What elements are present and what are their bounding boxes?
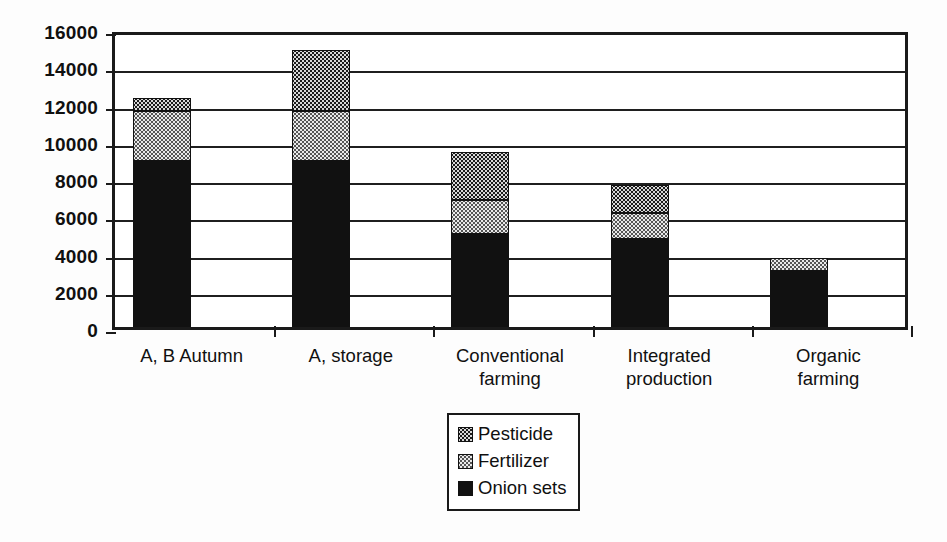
bar-segment-fertilizer	[451, 200, 509, 234]
y-tick-label: 12000	[44, 97, 98, 116]
bar-segment-fertilizer	[292, 111, 350, 161]
chart-legend: PesticideFertilizerOnion sets	[447, 413, 580, 511]
legend-swatch-icon	[458, 454, 473, 469]
bar-segment-pesticide	[451, 152, 509, 200]
gridline	[115, 109, 905, 111]
bar-segment-onion-sets	[451, 234, 509, 327]
x-tick-mark	[752, 326, 754, 337]
bar-segment-fertilizer	[133, 111, 191, 161]
y-tick-mark	[106, 332, 116, 334]
legend-item-pesticide: Pesticide	[458, 421, 570, 448]
bar-segment-onion-sets	[133, 161, 191, 327]
legend-item-onion-sets: Onion sets	[458, 475, 570, 502]
bar-2	[292, 50, 350, 328]
x-tick-label: Integrated production	[590, 345, 749, 390]
bar-4	[611, 185, 669, 327]
y-tick-label: 2000	[55, 283, 98, 302]
legend-label: Pesticide	[478, 425, 553, 444]
y-tick-mark	[106, 183, 116, 185]
y-tick-label: 10000	[44, 134, 98, 153]
y-tick-mark	[106, 220, 116, 222]
bar-segment-fertilizer	[770, 258, 828, 271]
bar-3	[451, 152, 509, 327]
y-tick-mark	[106, 34, 116, 36]
plot-area	[112, 32, 908, 330]
bar-segment-fertilizer	[611, 213, 669, 239]
bar-segment-pesticide	[611, 185, 669, 213]
y-tick-label: 8000	[55, 172, 98, 191]
bar-segment-onion-sets	[292, 161, 350, 327]
legend-label: Onion sets	[478, 479, 566, 498]
bar-1	[133, 98, 191, 327]
y-tick-mark	[106, 258, 116, 260]
y-tick-mark	[106, 109, 116, 111]
x-tick-label: Organic farming	[749, 345, 908, 390]
y-tick-label: 0	[87, 321, 98, 340]
gridline	[115, 71, 905, 73]
legend-swatch-icon	[458, 427, 473, 442]
bar-segment-pesticide	[133, 98, 191, 111]
bar-segment-onion-sets	[611, 239, 669, 327]
y-axis: 0200040006000800010000120001400016000	[0, 0, 98, 542]
y-tick-mark	[106, 71, 116, 73]
x-tick-mark	[911, 326, 913, 337]
bar-segment-onion-sets	[770, 271, 828, 327]
gridline	[115, 220, 905, 222]
y-tick-label: 6000	[55, 209, 98, 228]
legend-label: Fertilizer	[478, 452, 549, 471]
x-tick-mark	[274, 326, 276, 337]
legend-swatch-icon	[458, 481, 473, 496]
y-tick-mark	[106, 295, 116, 297]
bar-5	[770, 258, 828, 327]
x-tick-label: A, storage	[271, 345, 430, 368]
x-tick-label: Conventional farming	[430, 345, 589, 390]
legend-item-fertilizer: Fertilizer	[458, 448, 570, 475]
stacked-bar-chart-figure: 0200040006000800010000120001400016000 A,…	[0, 0, 947, 542]
y-tick-mark	[106, 146, 116, 148]
y-tick-label: 16000	[44, 23, 98, 42]
x-tick-mark	[593, 326, 595, 337]
y-tick-label: 14000	[44, 60, 98, 79]
y-tick-label: 4000	[55, 246, 98, 265]
bar-segment-pesticide	[292, 50, 350, 111]
gridline	[115, 146, 905, 148]
x-tick-label: A, B Autumn	[112, 345, 271, 368]
gridline	[115, 183, 905, 185]
x-tick-mark	[433, 326, 435, 337]
